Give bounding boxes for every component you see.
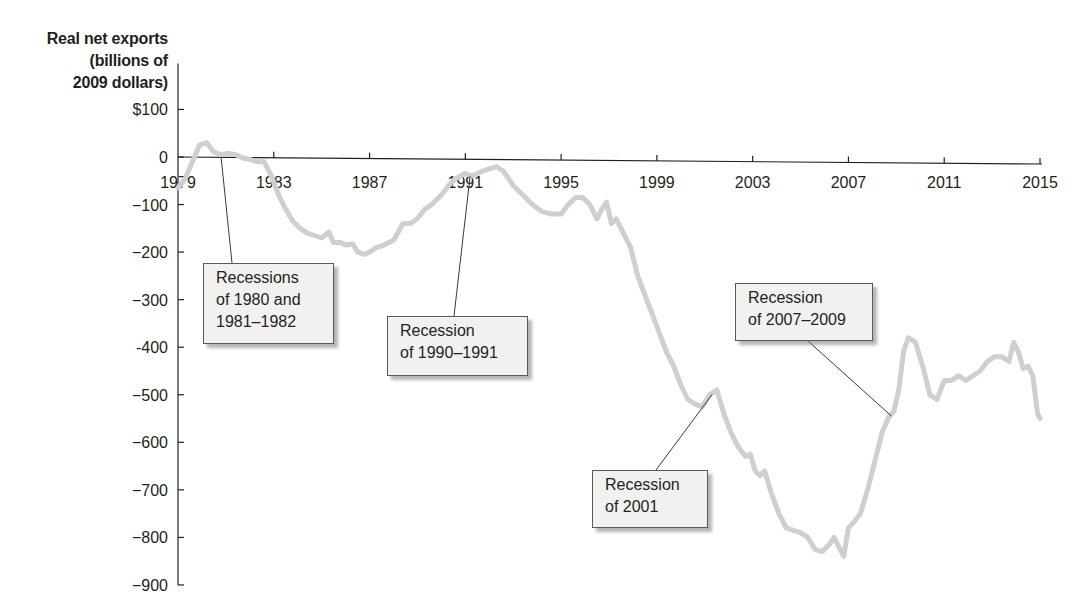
x-tick-label: 2015 — [1022, 174, 1058, 191]
annotation-leader-line — [808, 341, 892, 416]
y-tick-label: -400 — [136, 339, 168, 356]
y-tick-label: −200 — [132, 244, 168, 261]
annotation-recession-2001: Recession of 2001 — [592, 470, 708, 528]
y-tick-label: $100 — [132, 101, 168, 118]
annotation-leader-line — [454, 176, 470, 316]
annotation-recession-1980-1982: Recessions of 1980 and 1981–1982 — [203, 263, 334, 344]
annotation-recession-1990-1991: Recession of 1990–1991 — [387, 316, 528, 376]
y-tick-label: −800 — [132, 529, 168, 546]
x-tick-label: 1995 — [543, 174, 579, 191]
x-tick-label: 2007 — [831, 174, 867, 191]
x-axis: 1979198319871991199519992003200720112015 — [160, 152, 1058, 191]
x-tick-label: 2011 — [927, 174, 962, 191]
y-axis: $1000−100−200−300-400−500−600−700−800−90… — [132, 63, 184, 594]
annotation-recession-2007-2009: Recession of 2007–2009 — [735, 283, 873, 341]
y-tick-label: −600 — [132, 434, 168, 451]
annotation-leader-line — [221, 157, 232, 263]
x-tick-label: 1999 — [639, 174, 675, 191]
net-exports-chart: Real net exports (billions of 2009 dolla… — [0, 0, 1075, 608]
y-tick-label: −700 — [132, 482, 168, 499]
plot-area: $1000−100−200−300-400−500−600−700−800−90… — [0, 0, 1075, 608]
y-tick-label: −100 — [132, 197, 168, 214]
x-tick-label: 1987 — [352, 174, 388, 191]
annotation-leader-line — [656, 395, 712, 470]
y-tick-label: 0 — [159, 149, 168, 166]
y-tick-label: −900 — [132, 577, 168, 594]
y-tick-label: −300 — [132, 292, 168, 309]
y-tick-label: −500 — [132, 387, 168, 404]
x-tick-label: 2003 — [735, 174, 771, 191]
